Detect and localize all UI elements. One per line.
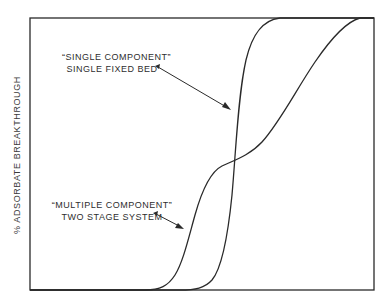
multiple-component-label-line2: TWO STAGE SYSTEM [50, 211, 174, 223]
single-component-label-line2: SINGLE FIXED BED [62, 63, 162, 75]
y-axis-label: % ADSORBATE BREAKTHROUGH [12, 76, 22, 234]
multiple-component-label-line1: “MULTIPLE COMPONENT” [52, 200, 172, 210]
single-component-label: “SINGLE COMPONENT” SINGLE FIXED BED [62, 51, 162, 75]
single-component-arrow [155, 64, 231, 110]
single-component-label-line1: “SINGLE COMPONENT” [62, 52, 171, 62]
chart-canvas [0, 0, 388, 306]
multiple-component-label: “MULTIPLE COMPONENT” TWO STAGE SYSTEM [50, 199, 174, 223]
